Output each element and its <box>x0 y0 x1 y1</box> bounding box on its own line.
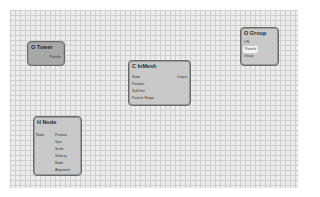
input-port-position[interactable]: Position <box>132 81 144 88</box>
output-port-scale[interactable]: Scale <box>55 146 63 153</box>
node-title: O Tower <box>28 42 64 51</box>
output-port-alignment[interactable]: Alignment <box>55 167 70 174</box>
node-title: O Group <box>241 28 278 37</box>
input-port-subtree[interactable]: SubTree <box>132 88 145 95</box>
inmesh-node[interactable]: C InMesh Node Output Position SubTree Pa… <box>128 60 191 106</box>
tower-node[interactable]: O Tower Particle <box>27 41 65 66</box>
output-port-position[interactable]: Position <box>55 132 67 139</box>
output-port-output[interactable]: Output <box>177 74 187 81</box>
node-title: H Node <box>34 117 81 126</box>
input-port-node[interactable]: Node <box>36 132 44 139</box>
output-port-node[interactable]: Node <box>55 160 63 167</box>
input-port-group[interactable]: Group <box>244 53 253 60</box>
output-port-velocity[interactable]: Velocity <box>55 153 67 160</box>
input-port-on[interactable]: ON <box>244 39 249 46</box>
output-port-spin[interactable]: Spin <box>55 139 62 146</box>
group-node[interactable]: O Group ON Particle Group <box>240 27 279 66</box>
input-port-particle[interactable]: Particle <box>243 46 258 53</box>
h-node[interactable]: H Node Node Position Spin Scale Velocity… <box>33 116 82 176</box>
output-port-particle[interactable]: Particle <box>50 54 61 61</box>
input-port-particle-shape[interactable]: Particle Shape <box>132 95 154 102</box>
node-title: C InMesh <box>129 61 190 70</box>
input-port-node[interactable]: Node <box>132 74 140 81</box>
